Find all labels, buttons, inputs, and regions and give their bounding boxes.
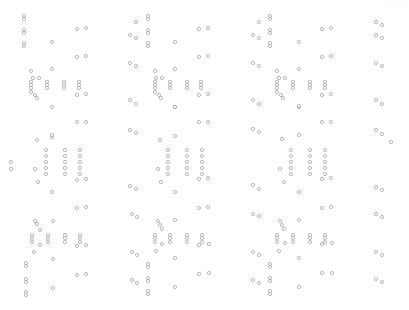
corner-label: ····· ···· bbox=[386, 0, 407, 7]
circle-marker bbox=[134, 131, 137, 134]
circle-marker bbox=[146, 31, 149, 34]
circle-marker bbox=[153, 90, 156, 93]
circle-marker bbox=[63, 160, 66, 163]
circle-marker bbox=[323, 166, 326, 169]
circle-marker bbox=[50, 105, 53, 108]
circle-marker bbox=[280, 223, 283, 226]
circle-marker bbox=[24, 264, 27, 267]
circle-marker bbox=[84, 92, 87, 95]
circle-marker bbox=[78, 148, 81, 151]
circle-marker bbox=[75, 273, 78, 276]
circle-marker bbox=[84, 205, 87, 208]
circle-marker bbox=[275, 236, 278, 239]
circle-marker bbox=[200, 154, 203, 157]
circle-marker bbox=[166, 160, 169, 163]
circle-marker bbox=[197, 243, 200, 246]
circle-marker bbox=[130, 250, 133, 253]
circle-marker bbox=[185, 154, 188, 157]
circle-marker bbox=[289, 166, 292, 169]
circle-marker bbox=[35, 222, 38, 225]
circle-marker bbox=[78, 236, 81, 239]
circle-marker bbox=[297, 40, 300, 43]
circle-marker bbox=[282, 180, 285, 183]
circle-marker bbox=[50, 67, 53, 70]
circle-marker bbox=[154, 249, 157, 252]
circle-marker bbox=[197, 55, 200, 58]
circle-marker bbox=[45, 86, 48, 89]
circle-marker bbox=[257, 64, 260, 67]
circle-marker bbox=[374, 185, 377, 188]
circle-marker bbox=[297, 190, 300, 193]
circle-marker bbox=[46, 236, 49, 239]
circle-marker bbox=[134, 187, 137, 190]
circle-marker bbox=[200, 160, 203, 163]
circle-marker bbox=[185, 172, 188, 175]
circle-marker bbox=[323, 148, 326, 151]
circle-marker bbox=[206, 120, 209, 123]
circle-marker bbox=[185, 148, 188, 151]
circle-marker bbox=[380, 253, 383, 256]
circle-marker bbox=[323, 160, 326, 163]
circle-marker bbox=[329, 26, 332, 29]
circle-marker bbox=[78, 160, 81, 163]
circle-marker bbox=[389, 140, 392, 143]
circle-marker bbox=[289, 148, 292, 151]
circle-marker bbox=[251, 61, 254, 64]
circle-marker bbox=[158, 138, 161, 141]
circle-marker bbox=[128, 184, 131, 187]
circle-marker bbox=[128, 61, 131, 64]
circle-marker bbox=[197, 93, 200, 96]
circle-marker bbox=[46, 240, 49, 243]
circle-marker bbox=[146, 44, 149, 47]
circle-marker bbox=[374, 20, 377, 23]
circle-marker bbox=[29, 90, 32, 93]
circle-marker bbox=[330, 271, 333, 274]
circle-marker bbox=[268, 292, 271, 295]
circle-marker bbox=[128, 33, 131, 36]
circle-marker bbox=[51, 219, 54, 222]
circle-marker bbox=[75, 120, 78, 123]
circle-marker bbox=[75, 27, 78, 30]
circle-marker bbox=[277, 249, 280, 252]
circle-marker bbox=[30, 236, 33, 239]
circle-marker bbox=[154, 76, 157, 79]
circle-marker bbox=[38, 243, 41, 246]
circle-marker bbox=[146, 265, 149, 268]
circle-marker bbox=[35, 96, 38, 99]
circle-marker bbox=[374, 128, 377, 131]
circle-marker bbox=[130, 212, 133, 215]
circle-marker bbox=[197, 177, 200, 180]
circle-marker bbox=[374, 33, 377, 36]
circle-marker bbox=[320, 120, 323, 123]
circle-marker bbox=[308, 148, 311, 151]
circle-marker bbox=[9, 167, 12, 170]
circle-marker bbox=[50, 40, 53, 43]
circle-marker bbox=[63, 236, 66, 239]
circle-marker bbox=[251, 127, 254, 130]
circle-marker bbox=[199, 86, 202, 89]
circle-marker bbox=[44, 172, 47, 175]
circle-marker bbox=[31, 76, 34, 79]
circle-marker bbox=[75, 178, 78, 181]
circle-pattern-canvas bbox=[0, 0, 409, 310]
circle-marker bbox=[63, 166, 66, 169]
circle-marker bbox=[157, 93, 160, 96]
circle-marker bbox=[146, 17, 149, 20]
circle-marker bbox=[279, 93, 282, 96]
circle-marker bbox=[173, 40, 176, 43]
circle-marker bbox=[134, 64, 137, 67]
circle-marker bbox=[207, 271, 210, 274]
circle-marker bbox=[374, 61, 377, 64]
circle-marker bbox=[289, 154, 292, 157]
circle-marker bbox=[291, 86, 294, 89]
circle-marker bbox=[36, 180, 39, 183]
circle-marker bbox=[33, 167, 36, 170]
circle-marker bbox=[130, 278, 133, 281]
circle-marker bbox=[278, 167, 281, 170]
circle-marker bbox=[51, 257, 54, 260]
circle-marker bbox=[156, 219, 159, 222]
circle-marker bbox=[9, 160, 12, 163]
circle-marker bbox=[200, 166, 203, 169]
circle-marker bbox=[308, 236, 311, 239]
circle-marker bbox=[128, 128, 131, 131]
